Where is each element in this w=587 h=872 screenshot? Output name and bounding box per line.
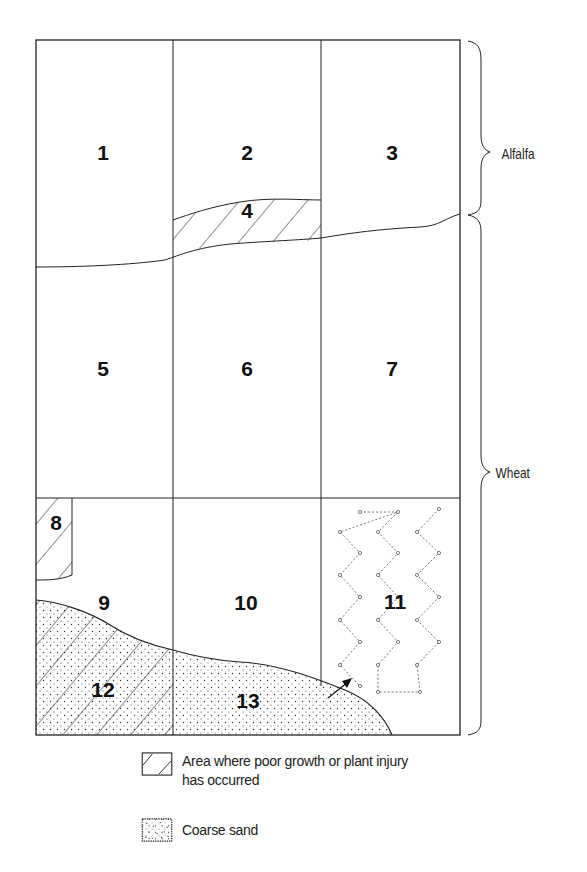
region-label-12: 12	[91, 678, 114, 701]
legend-text-dotted: Coarse sand	[182, 818, 422, 840]
region-12-hatch-fill	[36, 598, 173, 735]
alfalfa-label: Alfalfa	[502, 146, 536, 162]
hatched-swatch-icon	[140, 752, 174, 776]
region-label-9: 9	[98, 591, 110, 614]
region-label-2: 2	[241, 141, 253, 164]
region-label-6: 6	[241, 357, 253, 380]
legend-text-hatched: Area where poor growth or plant injury h…	[182, 752, 422, 790]
alfalfa-brace	[468, 41, 490, 215]
region-label-3: 3	[386, 141, 398, 164]
dotted-swatch-icon	[140, 818, 174, 842]
region-label-4: 4	[241, 199, 253, 222]
field-map-diagram: 1 2 3 4 5 6 7 8 9 10 11 12 13 Alfalfa Wh…	[0, 0, 587, 872]
region-13-dot-fill	[173, 648, 393, 735]
region-label-5: 5	[97, 357, 109, 380]
wheat-label: Wheat	[496, 465, 531, 481]
wheat-brace	[468, 215, 490, 735]
region-label-10: 10	[234, 591, 257, 614]
region-label-1: 1	[97, 141, 109, 164]
legend-item-dotted: Coarse sand	[140, 818, 422, 842]
region-label-7: 7	[386, 357, 398, 380]
legend-item-hatched: Area where poor growth or plant injury h…	[140, 752, 422, 790]
region-label-11: 11	[384, 590, 407, 613]
region-label-8: 8	[50, 511, 62, 534]
region-label-13: 13	[236, 689, 259, 712]
